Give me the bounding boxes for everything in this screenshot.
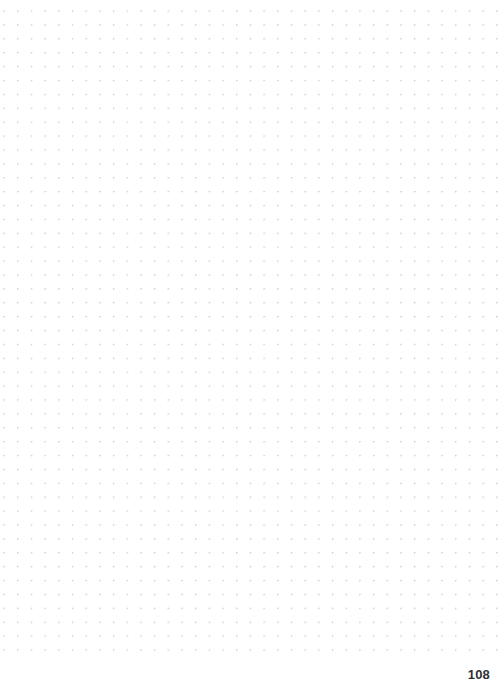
notebook-page: 108 [0, 0, 503, 690]
dot-grid-background [0, 0, 503, 662]
page-number-area: 108 [0, 662, 503, 690]
page-number: 108 [468, 668, 490, 681]
